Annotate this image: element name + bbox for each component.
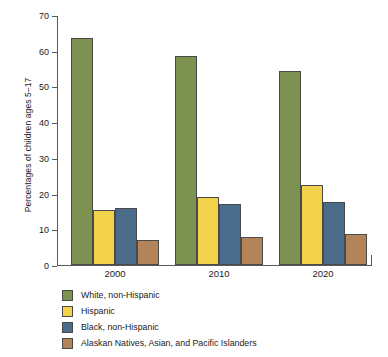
y-axis-tick-mark: [52, 195, 57, 196]
y-axis-tick-mark: [52, 159, 57, 160]
bar-group: [71, 16, 159, 265]
x-axis-line: [57, 265, 372, 266]
legend-item: Black, non-Hispanic: [62, 319, 382, 335]
y-axis-tick-label: 70: [39, 11, 49, 21]
plot-area: 010203040506070 200020102020: [57, 16, 372, 266]
legend-swatch: [62, 322, 73, 333]
y-axis-tick-mark: [52, 266, 57, 267]
y-axis-tick-label: 60: [39, 47, 49, 57]
x-axis-tick-label: 2000: [55, 268, 175, 279]
bar-group: [279, 16, 367, 265]
y-axis-tick-label: 50: [39, 82, 49, 92]
chart-legend: White, non-HispanicHispanicBlack, non-Hi…: [62, 287, 382, 351]
legend-item: Alaskan Natives, Asian, and Pacific Isla…: [62, 335, 382, 351]
y-axis-tick-mark: [52, 87, 57, 88]
bar: [323, 202, 345, 265]
y-axis-tick-label: 10: [39, 225, 49, 235]
legend-swatch: [62, 338, 73, 349]
y-axis-tick-mark: [52, 52, 57, 53]
bar: [279, 71, 301, 265]
bar: [137, 240, 159, 265]
bar-chart-figure: Percentages of children ages 5–17 010203…: [0, 0, 388, 357]
y-axis-tick-label: 30: [39, 154, 49, 164]
bar: [219, 204, 241, 265]
bar: [241, 237, 263, 265]
bar: [71, 38, 93, 265]
x-axis-tick-label: 2020: [263, 268, 383, 279]
legend-swatch: [62, 290, 73, 301]
y-axis-tick-mark: [52, 123, 57, 124]
y-axis-title: Percentages of children ages 5–17: [23, 45, 33, 245]
legend-label: Hispanic: [81, 306, 115, 316]
x-axis-tick-label: 2010: [159, 268, 279, 279]
y-axis-tick-mark: [52, 230, 57, 231]
legend-label: White, non-Hispanic: [81, 290, 160, 300]
bar: [93, 210, 115, 265]
y-axis-tick-mark: [52, 16, 57, 17]
bar: [197, 197, 219, 265]
x-axis-end-cap: [371, 255, 372, 266]
legend-item: Hispanic: [62, 303, 382, 319]
y-axis-tick-label: 40: [39, 118, 49, 128]
legend-item: White, non-Hispanic: [62, 287, 382, 303]
legend-label: Black, non-Hispanic: [81, 322, 159, 332]
y-axis-tick-label: 20: [39, 190, 49, 200]
bar-group: [175, 16, 263, 265]
bar: [115, 208, 137, 265]
bar: [301, 185, 323, 265]
legend-swatch: [62, 306, 73, 317]
y-axis-line: [57, 16, 58, 266]
bar: [175, 56, 197, 265]
bar: [345, 234, 367, 265]
legend-label: Alaskan Natives, Asian, and Pacific Isla…: [81, 338, 257, 348]
y-axis-tick-label: 0: [44, 261, 49, 271]
